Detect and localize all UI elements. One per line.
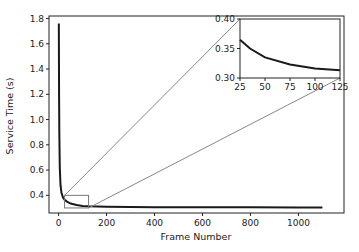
inset-y-tick-label: 0.30 xyxy=(215,73,235,83)
x-tick-label: 0 xyxy=(56,218,62,228)
inset-y-tick-label: 0.40 xyxy=(215,14,235,24)
inset-x-tick-label: 125 xyxy=(331,82,348,92)
y-tick-label: 1.6 xyxy=(30,39,45,49)
inset-x-tick-label: 50 xyxy=(259,82,271,92)
inset-x-tick-label: 100 xyxy=(306,82,323,92)
x-tick-label: 200 xyxy=(98,218,115,228)
y-tick-label: 1.8 xyxy=(30,14,45,24)
y-tick-label: 1.2 xyxy=(30,89,44,99)
y-tick-label: 0.6 xyxy=(30,165,45,175)
y-tick-label: 0.4 xyxy=(30,190,45,200)
y-tick-label: 0.8 xyxy=(30,140,45,150)
x-axis-label: Frame Number xyxy=(161,231,232,242)
x-tick-label: 1000 xyxy=(287,218,310,228)
y-tick-label: 1.0 xyxy=(30,115,45,125)
inset-x-tick-label: 75 xyxy=(284,82,295,92)
x-tick-label: 600 xyxy=(194,218,211,228)
inset-x-tick-label: 25 xyxy=(234,82,245,92)
y-axis: 0.40.60.81.01.21.41.61.8 xyxy=(30,14,49,201)
inset-connector-line xyxy=(65,19,240,195)
inset-connector-line xyxy=(89,78,340,208)
y-tick-label: 1.4 xyxy=(30,64,45,74)
x-axis: 02004006008001000 xyxy=(56,213,310,228)
y-axis-label: Service Time (s) xyxy=(4,78,15,155)
inset-axes: 0.300.350.40 255075100125 xyxy=(215,14,349,92)
inset-y-tick-label: 0.35 xyxy=(215,44,235,54)
x-tick-label: 400 xyxy=(146,218,163,228)
x-tick-label: 800 xyxy=(242,218,259,228)
chart: 0.40.60.81.01.21.41.61.8 020040060080010… xyxy=(0,0,359,252)
